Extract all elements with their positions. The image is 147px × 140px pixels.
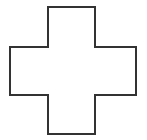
plus-cross-icon — [0, 0, 147, 140]
figure-canvas — [0, 0, 147, 140]
